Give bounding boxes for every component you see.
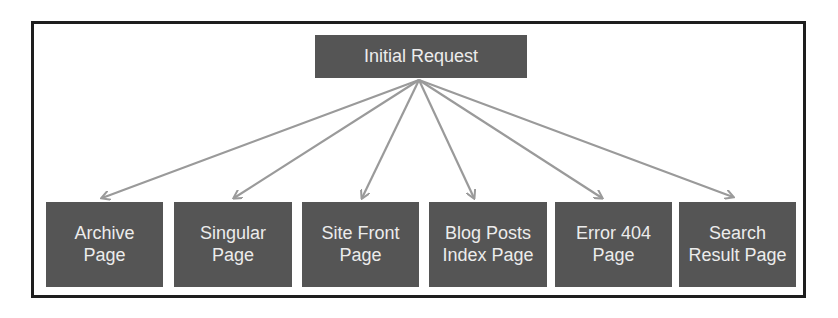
node-label: Error 404 Page bbox=[576, 223, 651, 267]
node-site-front-page: Site Front Page bbox=[302, 202, 419, 287]
node-label: Singular Page bbox=[200, 223, 266, 267]
node-label: Archive Page bbox=[74, 223, 134, 267]
node-archive-page: Archive Page bbox=[46, 202, 163, 287]
node-search-result-page: Search Result Page bbox=[679, 202, 796, 287]
node-initial-request: Initial Request bbox=[315, 35, 527, 78]
node-label: Site Front Page bbox=[321, 223, 399, 267]
node-label: Search Result Page bbox=[688, 223, 786, 267]
node-error-404-page: Error 404 Page bbox=[555, 202, 672, 287]
node-label: Blog Posts Index Page bbox=[442, 223, 533, 267]
node-blog-posts-index-page: Blog Posts Index Page bbox=[429, 202, 547, 287]
node-label: Initial Request bbox=[364, 46, 478, 68]
node-singular-page: Singular Page bbox=[174, 202, 292, 287]
